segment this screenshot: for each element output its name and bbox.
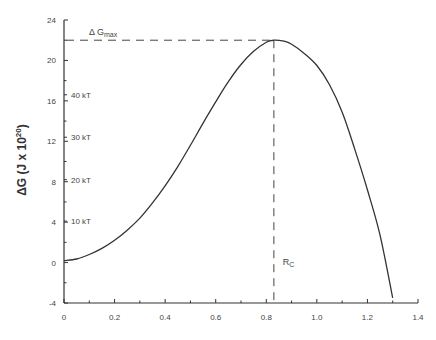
x-tick-label: 0	[62, 313, 67, 322]
x-tick-label: 1.0	[311, 313, 323, 322]
y-axis-label: ΔG (J x 1020)	[14, 124, 29, 196]
kt-label: 10 kT	[71, 217, 91, 226]
x-tick-label: 1.4	[412, 313, 424, 322]
y-axis-ticks: -404812162024	[47, 16, 68, 308]
x-tick-label: 0.8	[261, 313, 273, 322]
x-tick-label: 0.4	[160, 313, 172, 322]
free-energy-chart: -404812162024 00.20.40.60.81.01.21.4 10 …	[0, 0, 436, 340]
y-tick-label: 8	[52, 178, 57, 187]
y-tick-label: 4	[52, 218, 57, 227]
x-tick-label: 1.2	[362, 313, 374, 322]
x-tick-label: 0.6	[210, 313, 222, 322]
axes	[64, 20, 418, 303]
delta-g-curve	[64, 40, 393, 298]
y-tick-label: -4	[49, 299, 57, 308]
rc-label: RC	[283, 257, 295, 268]
kt-labels: 10 kT20 kT30 kT40 kT	[64, 91, 91, 226]
y-tick-label: 0	[52, 259, 57, 268]
kt-label: 20 kT	[71, 176, 91, 185]
x-tick-label: 0.2	[109, 313, 121, 322]
annotations: Δ GmaxRC	[66, 27, 294, 303]
y-tick-label: 24	[47, 16, 56, 25]
kt-label: 40 kT	[71, 91, 91, 100]
delta-g-max-label: Δ Gmax	[89, 27, 118, 38]
y-tick-label: 16	[47, 97, 56, 106]
y-tick-label: 20	[47, 56, 56, 65]
y-tick-label: 12	[47, 137, 56, 146]
kt-label: 30 kT	[71, 133, 91, 142]
